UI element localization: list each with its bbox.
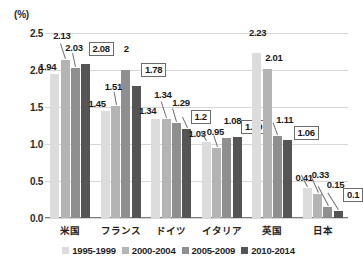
- chart-legend: 1995-19992000-20042005-20092010-2014: [0, 245, 357, 256]
- gridline: [45, 218, 348, 219]
- y-axis-tick-label: 2.0: [5, 65, 43, 76]
- bar-group: [101, 33, 141, 218]
- legend-swatch-icon: [62, 247, 69, 254]
- bar[interactable]: [121, 70, 130, 218]
- bar[interactable]: [50, 74, 59, 218]
- legend-label: 2005-2009: [192, 245, 236, 256]
- bar[interactable]: [111, 106, 120, 218]
- bar[interactable]: [283, 140, 292, 218]
- bar[interactable]: [81, 64, 90, 218]
- data-label: 2.03: [65, 42, 82, 53]
- data-label: 1.45: [88, 98, 105, 109]
- legend-swatch-icon: [241, 247, 248, 254]
- legend-item[interactable]: 2005-2009: [182, 245, 236, 256]
- legend-label: 1995-1999: [72, 245, 116, 256]
- x-axis-category-label: ドイツ: [146, 223, 197, 237]
- bar-group: [50, 33, 90, 218]
- bar[interactable]: [323, 207, 332, 218]
- legend-swatch-icon: [122, 247, 129, 254]
- legend-label: 2010-2014: [251, 245, 295, 256]
- bar[interactable]: [71, 68, 80, 218]
- x-axis-category-label: 日本: [298, 223, 349, 237]
- data-label: 1.34: [154, 89, 171, 100]
- legend-swatch-icon: [182, 247, 189, 254]
- bar[interactable]: [172, 123, 181, 218]
- x-axis-category-label: フランス: [96, 223, 147, 237]
- bar[interactable]: [162, 119, 171, 218]
- data-label: 2.23: [249, 27, 266, 38]
- bar[interactable]: [151, 119, 160, 218]
- bar[interactable]: [252, 53, 261, 218]
- legend-label: 2000-2004: [132, 245, 176, 256]
- bar[interactable]: [263, 69, 272, 218]
- legend-item[interactable]: 1995-1999: [62, 245, 116, 256]
- y-axis: 0.00.51.01.52.02.5: [0, 33, 43, 218]
- data-label: 0.95: [207, 126, 224, 137]
- bar[interactable]: [273, 136, 282, 218]
- y-axis-tick-label: 0.0: [5, 213, 43, 224]
- data-label: 1.34: [139, 105, 156, 116]
- bar[interactable]: [303, 188, 312, 218]
- bar[interactable]: [182, 129, 191, 218]
- y-axis-tick-label: 1.0: [5, 139, 43, 150]
- data-label: 2: [124, 43, 129, 54]
- data-label: 1.94: [39, 61, 56, 72]
- data-label: 1.29: [172, 97, 189, 108]
- bar[interactable]: [313, 194, 322, 218]
- bar[interactable]: [61, 60, 70, 218]
- data-label: 2.13: [53, 30, 70, 41]
- x-axis-category-label: 英国: [247, 223, 298, 237]
- bar-group: [303, 33, 343, 218]
- bar[interactable]: [233, 137, 242, 218]
- bar[interactable]: [212, 148, 221, 218]
- y-axis-unit-label: (%): [14, 9, 29, 20]
- bar[interactable]: [222, 138, 231, 218]
- plot-area: 1.942.132.032.081.451.5121.781.341.341.2…: [45, 33, 348, 218]
- bar[interactable]: [101, 111, 110, 218]
- data-label: 1.51: [105, 81, 122, 92]
- data-label: 1.08: [224, 115, 241, 126]
- data-label: 0.1: [343, 188, 363, 202]
- legend-item[interactable]: 2010-2014: [241, 245, 295, 256]
- y-axis-tick-label: 1.5: [5, 102, 43, 113]
- data-label: 0.15: [327, 179, 344, 190]
- x-axis-labels: 米国フランスドイツイタリア英国日本: [45, 221, 348, 239]
- y-axis-tick-label: 0.5: [5, 176, 43, 187]
- bar[interactable]: [334, 211, 343, 218]
- x-axis-category-label: 米国: [45, 223, 96, 237]
- legend-item[interactable]: 2000-2004: [122, 245, 176, 256]
- data-label: 2.01: [265, 52, 282, 63]
- data-label: 1.11: [276, 114, 293, 125]
- bar[interactable]: [202, 142, 211, 218]
- y-axis-tick-label: 2.5: [5, 28, 43, 39]
- x-axis-category-label: イタリア: [197, 223, 248, 237]
